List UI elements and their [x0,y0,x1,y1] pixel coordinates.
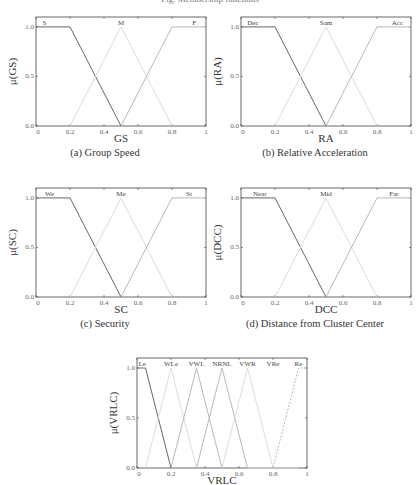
x-tick-label: 0.8 [168,128,177,136]
series-line-dec [241,27,326,126]
chart-caption-c: (c) Security [0,318,210,329]
chart-c: 00.20.40.60.810.00.51.0WeMeStSCμ(SC) [36,188,206,297]
set-label: Mid [320,190,332,198]
x-tick-label: 0.6 [134,128,143,136]
y-tick-label: 1.0 [126,364,135,372]
series-line-near [241,198,326,297]
plot-frame [36,17,206,126]
y-axis-label: μ(GS) [6,58,19,86]
x-axis-label: RA [318,132,333,144]
y-tick-label: 0.0 [126,464,135,472]
x-axis-label: SC [114,303,127,315]
x-tick-label: 0.8 [373,299,382,307]
x-tick-label: 0.4 [305,299,314,307]
x-axis-label: GS [114,132,128,144]
series-line-vwr [222,368,273,468]
chart-caption-a: (a) Group Speed [0,147,210,158]
x-tick-label: 0.2 [66,299,75,307]
x-axis-label: VRLC [207,474,236,485]
set-label: S [43,19,47,27]
x-tick-label: 0.8 [168,299,177,307]
x-tick-label: 0.6 [339,299,348,307]
set-label: Far [389,190,399,198]
series-line-far [326,198,411,297]
y-axis-label: μ(DCC) [211,224,224,260]
series-line-m [70,27,172,126]
x-tick-label: 0.2 [271,128,280,136]
y-tick-label: 1.0 [230,194,239,202]
series-line-we [36,198,121,297]
chart-d: 00.20.40.60.810.00.51.0NearMidFarDCCμ(DC… [241,188,411,297]
set-label: Le [138,360,145,368]
set-label: VRe [267,360,280,368]
series-line-s [36,27,121,126]
series-line-re [273,368,307,468]
y-tick-label: 1.0 [230,23,239,31]
y-tick-label: 0.0 [230,293,239,301]
x-tick-label: 0.2 [66,128,75,136]
y-tick-label: 1.0 [25,194,34,202]
x-tick-label: 0.4 [305,128,314,136]
x-tick-label: 0 [241,128,245,136]
set-label: Near [253,190,267,198]
set-label: St [186,190,192,198]
series-line-mid [275,198,377,297]
series-line-nrnl [197,368,248,468]
figure-top-caption: Fig. Membership functions [0,0,420,4]
plot-frame [241,17,411,126]
x-tick-label: 0 [36,128,40,136]
x-tick-label: 1 [409,128,413,136]
x-tick-label: 1 [305,470,309,478]
y-axis-label: μ(SC) [6,229,19,256]
set-label: We [45,190,54,198]
set-label: M [118,19,125,27]
x-tick-label: 0.2 [271,299,280,307]
x-tick-label: 0.6 [134,299,143,307]
series-line-me [70,198,172,297]
x-axis-label: DCC [315,303,338,315]
x-tick-label: 0.4 [100,128,109,136]
y-tick-label: 0.5 [126,414,135,422]
y-tick-label: 1.0 [25,23,34,31]
set-label: VWR [239,360,256,368]
chart-caption-b: (b) Relative Acceleration [210,147,420,158]
set-label: Re [295,360,303,368]
set-label: VWL [189,360,205,368]
y-tick-label: 0.0 [230,122,239,130]
set-label: NRNL [212,360,231,368]
y-tick-label: 0.0 [25,122,34,130]
x-tick-label: 1 [409,299,413,307]
set-label: Sam [320,19,333,27]
set-label: F [192,19,196,27]
chart-caption-d: (d) Distance from Cluster Center [210,318,420,329]
x-tick-label: 1 [204,128,208,136]
set-label: Me [116,190,125,198]
series-line-le [137,368,171,468]
chart-a: 00.20.40.60.810.00.51.0SMFGSμ(GS) [36,17,206,126]
y-tick-label: 0.5 [230,72,239,80]
chart-b: 00.20.40.60.810.00.51.0DecSamAccRAμ(RA) [241,17,411,126]
set-label: WLe [164,360,178,368]
x-tick-label: 0.2 [167,470,176,478]
plot-frame [36,188,206,297]
y-axis-label: μ(VRLC) [107,391,120,434]
series-line-vwl [171,368,222,468]
series-line-acc [326,27,411,126]
x-tick-label: 0 [137,470,141,478]
plot-frame [241,188,411,297]
y-tick-label: 0.5 [25,72,34,80]
set-label: Acc [392,19,403,27]
x-tick-label: 0.8 [269,470,278,478]
x-tick-label: 0.4 [100,299,109,307]
plot-frame [137,358,307,468]
set-label: Dec [247,19,258,27]
series-line-f [121,27,206,126]
chart-e: 00.20.40.60.810.00.51.0LeWLeVWLNRNLVWRVR… [137,358,307,468]
series-line-sam [275,27,377,126]
y-tick-label: 0.5 [230,243,239,251]
series-line-st [121,198,206,297]
x-tick-label: 1 [204,299,208,307]
x-tick-label: 0 [36,299,40,307]
y-tick-label: 0.5 [25,243,34,251]
x-tick-label: 0.8 [373,128,382,136]
